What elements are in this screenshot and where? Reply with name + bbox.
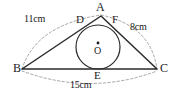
measure-label-bc: 15cm: [70, 80, 91, 90]
vertex-label-a: A: [96, 1, 105, 13]
vertex-label-c: C: [160, 62, 168, 74]
geometry-figure: A B C D E F O 11cm 8cm 15cm: [0, 0, 173, 106]
vertex-label-b: B: [13, 62, 21, 74]
tangent-label-f: F: [112, 14, 118, 25]
measure-label-ab: 11cm: [24, 14, 45, 24]
center-point-o: [97, 42, 100, 45]
measure-label-ac: 8cm: [130, 22, 147, 32]
circle-center-label-o: O: [94, 46, 101, 56]
tangent-label-d: D: [76, 14, 84, 25]
tangent-label-e: E: [94, 70, 101, 81]
